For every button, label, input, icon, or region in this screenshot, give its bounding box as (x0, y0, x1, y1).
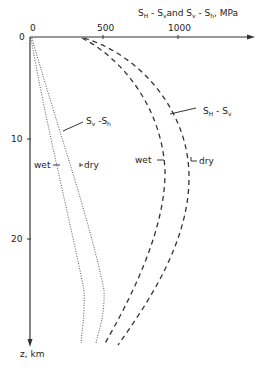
curve-shsv-wet (82, 38, 165, 345)
svsh-leader-line (63, 122, 83, 131)
dry-dashed-label: dry (199, 156, 214, 166)
curve-shsv-dry (84, 38, 189, 345)
x-tick-label-1000: 1000 (168, 23, 191, 33)
y-tick-label-20: 20 (11, 234, 23, 244)
x-tick-label-500: 500 (97, 23, 114, 33)
x-tick-label-0: 0 (30, 23, 36, 33)
curve-svsh-dry (32, 38, 104, 343)
curve-svsh-wet (31, 38, 84, 343)
x-axis-title: SH - Svand Sv - Sh, MPa (138, 8, 238, 19)
y-axis-arrow-icon (28, 339, 33, 347)
shsv-label: SH - Sv (203, 106, 232, 117)
wet-dotted-label: wet (34, 160, 51, 170)
y-tick-label-10: 10 (11, 134, 23, 144)
y-axis-title: z, km (20, 349, 44, 359)
wet-dashed-label: wet (135, 155, 152, 165)
svsh-label: Sv -Sh (86, 116, 111, 127)
shsv-leader-line (170, 108, 196, 114)
dry-dotted-label: dry (84, 160, 99, 170)
x-axis-arrow-icon (247, 35, 255, 40)
chart-canvas: 0 500 1000 0 10 20 SH - Svand Sv - Sh, M… (0, 0, 258, 371)
y-tick-label-0: 0 (19, 32, 25, 42)
